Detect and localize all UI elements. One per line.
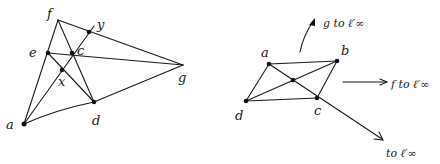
label-c: c — [314, 103, 322, 118]
point-y — [87, 30, 92, 35]
projective-geometry-diagram: f y e c x g d a a b c d g to ℓ′∞ — [0, 0, 440, 164]
label-g: g — [178, 70, 186, 85]
side-d-c — [246, 98, 317, 101]
annotation-diagonal-to-line-infinity: to ℓ′∞ — [386, 147, 417, 160]
label-b: b — [341, 43, 349, 58]
point-c — [70, 51, 75, 56]
annotation-f-to-line-infinity: f to ℓ′∞ — [390, 78, 429, 91]
label-c: c — [77, 43, 85, 58]
label-a: a — [261, 45, 269, 60]
point-d — [244, 99, 249, 104]
line-a-d-g — [24, 65, 183, 124]
point-x — [60, 68, 65, 73]
label-d: d — [92, 113, 100, 128]
side-a-b — [269, 61, 337, 64]
label-e: e — [29, 45, 37, 60]
point-c — [315, 96, 320, 101]
left-figure: f y e c x g d a — [6, 6, 186, 132]
line-e-c-g — [48, 53, 183, 65]
point-a — [267, 62, 272, 67]
label-y: y — [96, 17, 105, 32]
point-e — [46, 51, 51, 56]
line-f-a — [24, 20, 58, 124]
point-a — [22, 122, 27, 127]
annotation-g-to-line-infinity: g to ℓ′∞ — [323, 17, 364, 30]
label-a: a — [6, 117, 14, 132]
label-f: f — [46, 6, 54, 21]
line-e-x-d — [48, 53, 94, 102]
right-figure: a b c d g to ℓ′∞ f to ℓ′∞ to ℓ′∞ — [235, 17, 429, 160]
point-center — [291, 78, 296, 83]
label-d: d — [235, 108, 243, 123]
side-b-c — [317, 61, 337, 98]
diagonal-a-c-extended — [269, 64, 382, 139]
arrowhead-up — [309, 18, 315, 26]
point-d — [92, 100, 97, 105]
label-x: x — [58, 74, 66, 89]
point-b — [335, 59, 340, 64]
